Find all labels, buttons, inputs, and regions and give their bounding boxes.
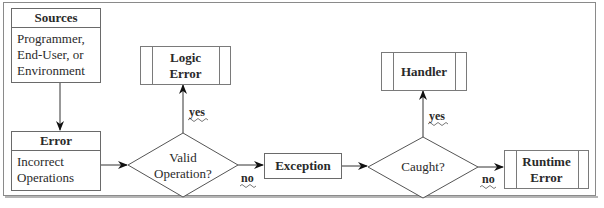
sources-line: End-User, or	[17, 47, 100, 63]
handler-left-bar	[393, 53, 394, 90]
valid-line: Operation?	[138, 166, 228, 182]
sources-body: Programmer, End-User, or Environment	[12, 28, 100, 79]
sources-box: Sources Programmer, End-User, or Environ…	[11, 8, 101, 83]
error-line: Incorrect	[17, 154, 100, 170]
caught-yes-label: yes	[429, 110, 445, 122]
sources-line: Environment	[17, 63, 100, 79]
handler-box: Handler	[381, 52, 467, 91]
caught-label: Caught?	[383, 159, 463, 175]
logic-error-right-bar	[219, 47, 220, 84]
valid-line: Valid	[138, 150, 228, 166]
error-body: Incorrect Operations	[12, 151, 100, 186]
valid-operation-label: Valid Operation?	[138, 150, 228, 182]
logic-error-box: Logic Error	[140, 46, 231, 85]
runtime-error-line: Runtime	[522, 154, 570, 170]
logic-error-line: Error	[169, 66, 201, 82]
error-title: Error	[12, 132, 100, 151]
exception-box: Exception	[264, 153, 342, 179]
sources-line: Programmer,	[17, 31, 100, 47]
runtime-error-box: Runtime Error	[504, 150, 589, 189]
exception-label: Exception	[275, 158, 331, 174]
error-box: Error Incorrect Operations	[11, 131, 101, 191]
runtime-error-right-bar	[578, 151, 579, 188]
logic-error-left-bar	[152, 47, 153, 84]
sources-title: Sources	[12, 9, 100, 28]
runtime-error-label: Runtime Error	[522, 154, 570, 186]
logic-error-line: Logic	[169, 50, 201, 66]
caught-no-label: no	[482, 173, 495, 185]
handler-label: Handler	[401, 64, 447, 80]
handler-right-bar	[455, 53, 456, 90]
error-line: Operations	[17, 170, 100, 186]
runtime-error-left-bar	[516, 151, 517, 188]
valid-yes-label: yes	[189, 106, 205, 118]
runtime-error-line: Error	[522, 170, 570, 186]
logic-error-label: Logic Error	[169, 50, 201, 82]
valid-no-label: no	[241, 172, 254, 184]
